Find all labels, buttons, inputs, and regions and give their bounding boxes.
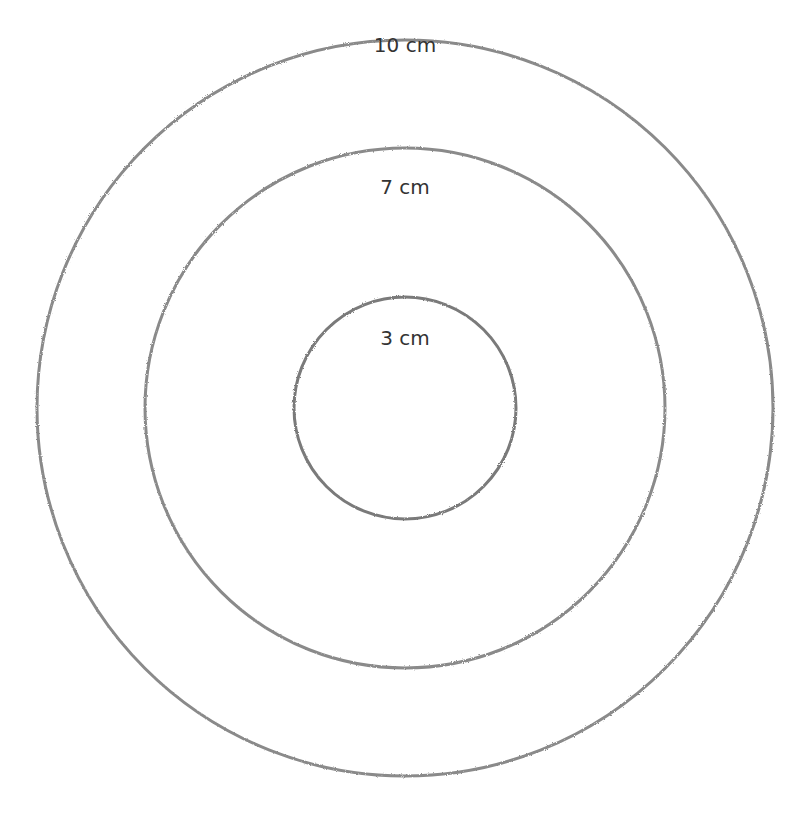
- concentric-circles-diagram: [0, 0, 801, 823]
- middle-circle: [145, 148, 665, 668]
- inner-circle-label: 3 cm: [380, 326, 430, 350]
- middle-circle-label: 7 cm: [380, 175, 430, 199]
- outer-circle: [37, 40, 773, 776]
- outer-circle-label: 10 cm: [374, 33, 436, 57]
